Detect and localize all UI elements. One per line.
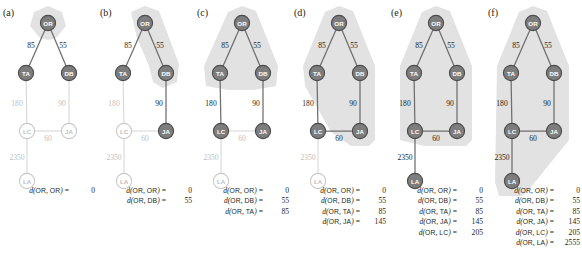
panel-a: (a)855518090602350ORTADBLCJALAd(OR, OR)=… (0, 0, 97, 267)
distance-target: DB (245, 197, 255, 204)
distance-source: OR (230, 197, 240, 204)
edge-weight-DB-JA: 90 (155, 99, 163, 108)
distance-expression: d(OR, LA) (516, 238, 548, 248)
node-TA: TA (503, 65, 518, 80)
distance-target: JA (440, 218, 448, 225)
node-label-LA: LA (120, 178, 129, 185)
distance-target: JA (537, 218, 545, 225)
distance-list-b: d(OR, OR)=0d(OR, DB)=55 (97, 186, 192, 207)
distance-source: OR (521, 197, 531, 204)
graph-f: 855518090602350ORTADBLCJALA (485, 0, 582, 200)
node-DB: DB (255, 65, 270, 80)
distance-value: 0 (265, 186, 289, 196)
node-TA: TA (115, 65, 130, 80)
edge-weight-DB-JA: 90 (543, 99, 551, 108)
distance-source: OR (426, 218, 436, 225)
edge-weight-OR-DB: 55 (156, 41, 164, 50)
edge-weight-TA-LC: 180 (108, 99, 120, 108)
edge-weight-LC-LA: 2350 (9, 153, 24, 162)
edge-weight-LC-JA: 60 (238, 134, 246, 143)
node-OR: OR (428, 15, 443, 30)
distance-target: LC (439, 229, 448, 236)
distance-expression: d(OR, OR) (223, 186, 256, 196)
distance-expression: d(OR, DB) (127, 196, 160, 206)
edge-weight-DB-JA: 90 (58, 99, 66, 108)
node-label-JA: JA (65, 128, 73, 135)
distance-target: TA (537, 208, 545, 215)
distance-target: OR (244, 187, 254, 194)
equals-sign: = (257, 186, 265, 196)
node-OR: OR (331, 15, 346, 30)
node-DB: DB (352, 65, 367, 80)
distance-value: 205 (459, 228, 483, 238)
node-label-JA: JA (550, 128, 558, 135)
node-TA: TA (309, 65, 324, 80)
node-DB: DB (449, 65, 464, 80)
distance-source: OR (327, 197, 337, 204)
distance-target: TA (246, 208, 254, 215)
edge-weight-OR-TA: 85 (124, 41, 132, 50)
panel-c: (c)855518090602350ORTADBLCJALAd(OR, OR)=… (194, 0, 291, 267)
equals-sign: = (548, 238, 556, 248)
distance-target: OR (50, 187, 60, 194)
edge-weight-DB-JA: 90 (446, 99, 454, 108)
graph-a: 855518090602350ORTADBLCJALA (0, 0, 97, 200)
edge-weight-TA-LC: 180 (205, 99, 217, 108)
node-OR: OR (137, 15, 152, 30)
equals-sign: = (451, 228, 459, 238)
distance-target: OR (147, 187, 157, 194)
distance-source: OR (329, 218, 339, 225)
equals-sign: = (354, 186, 362, 196)
node-JA: JA (255, 123, 270, 138)
equals-sign: = (548, 186, 556, 196)
node-JA: JA (158, 123, 173, 138)
panel-b: (b)855518090602350ORTADBLCJALAd(OR, OR)=… (97, 0, 194, 267)
edge-weight-LC-LA: 2350 (494, 153, 509, 162)
distance-value: 55 (556, 196, 580, 206)
equals-sign: = (548, 196, 556, 206)
distance-expression: d(OR, LC) (419, 228, 451, 238)
distance-row: d(OR, JA)=145 (388, 217, 483, 227)
node-label-JA: JA (162, 128, 170, 135)
node-JA: JA (449, 123, 464, 138)
node-LC: LC (407, 123, 422, 138)
distance-row: d(OR, DB)=55 (291, 196, 386, 206)
distance-row: d(OR, DB)=55 (388, 196, 483, 206)
distance-source: OR (523, 218, 533, 225)
edge-weight-TA-LC: 180 (496, 99, 508, 108)
distance-row: d(OR, OR)=0 (0, 186, 95, 196)
node-label-LC: LC (217, 128, 226, 135)
distance-list-d: d(OR, OR)=0d(OR, DB)=55d(OR, TA)=85d(OR,… (291, 186, 386, 228)
graph-e: 855518090602350ORTADBLCJALA (388, 0, 485, 200)
node-label-TA: TA (119, 70, 127, 77)
distance-row: d(OR, OR)=0 (388, 186, 483, 196)
distance-row: d(OR, LA)=2555 (485, 238, 580, 248)
distance-row: d(OR, DB)=55 (485, 196, 580, 206)
node-label-LC: LC (23, 128, 32, 135)
edge-weight-LC-LA: 2350 (300, 153, 315, 162)
distance-row: d(OR, JA)=145 (485, 217, 580, 227)
edge-weight-LC-LA: 2350 (397, 153, 412, 162)
distance-source: OR (522, 229, 532, 236)
distance-expression: d(OR, JA) (420, 217, 451, 227)
node-label-LC: LC (120, 128, 129, 135)
equals-sign: = (354, 196, 362, 206)
node-label-DB: DB (65, 70, 74, 77)
node-label-OR: OR (237, 20, 247, 27)
node-label-DB: DB (259, 70, 268, 77)
distance-expression: d(OR, DB) (321, 196, 354, 206)
distance-row: d(OR, TA)=85 (485, 207, 580, 217)
edge-weight-OR-DB: 55 (544, 41, 552, 50)
distance-expression: d(OR, OR) (126, 186, 159, 196)
node-OR: OR (40, 15, 55, 30)
node-label-LA: LA (217, 178, 226, 185)
distance-row: d(OR, TA)=85 (194, 207, 289, 217)
distance-expression: d(OR, TA) (516, 207, 547, 217)
edge-weight-LC-LA: 2350 (106, 153, 121, 162)
distance-expression: d(OR, TA) (419, 207, 450, 217)
distance-value: 85 (362, 207, 386, 217)
edge-weight-DB-JA: 90 (349, 99, 357, 108)
distance-row: d(OR, TA)=85 (291, 207, 386, 217)
distance-list-f: d(OR, OR)=0d(OR, DB)=55d(OR, TA)=85d(OR,… (485, 186, 580, 248)
distance-source: OR (426, 208, 436, 215)
